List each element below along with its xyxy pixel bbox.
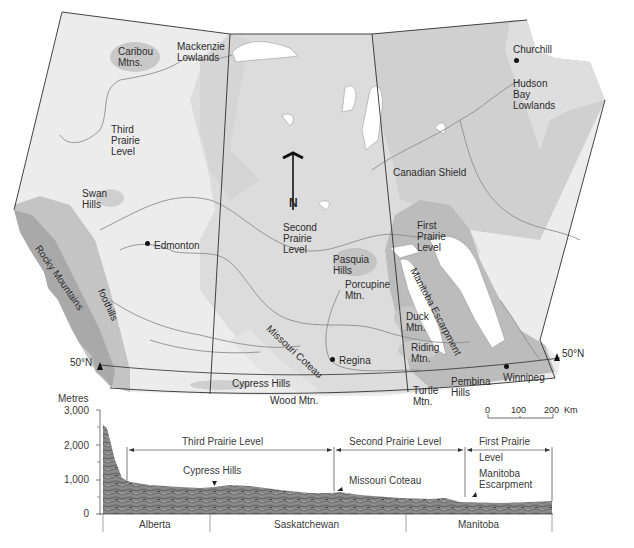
y-tick-2000: 2,000 — [45, 440, 89, 451]
y-tick-1000: 1,000 — [45, 474, 89, 485]
scale-tick-0: 0 — [485, 405, 490, 416]
cypress-marker — [212, 481, 217, 486]
label-caribou-mtns: Caribou Mtns. — [118, 46, 158, 68]
label-first-prairie-level: First Prairie Level — [417, 220, 449, 253]
profile-province-manitoba: Manitoba — [458, 519, 499, 530]
label-riding-mtn: Riding Mtn. — [411, 342, 441, 364]
profile-cypress-hills: Cypress Hills — [183, 465, 241, 476]
city-dot-winnipeg — [504, 364, 509, 369]
city-dot-churchill — [514, 58, 519, 63]
label-churchill: Churchill — [513, 44, 552, 55]
profile-first-prairie-level-2: Level — [479, 452, 503, 463]
profile-manitoba-escarpment-2: Escarpment — [479, 479, 532, 490]
label-edmonton: Edmonton — [154, 240, 200, 251]
profile-second-prairie-level: Second Prairie Level — [349, 436, 441, 447]
scale-unit: Km — [564, 405, 578, 416]
label-duck-mtn: Duck Mtn. — [406, 311, 434, 333]
north-label: N — [289, 198, 298, 209]
city-dot-edmonton — [145, 241, 150, 246]
y-tick-3000: 3,000 — [45, 405, 89, 416]
label-porcupine-mtn: Porcupine Mtn. — [345, 279, 395, 301]
escarpment-marker — [472, 492, 477, 497]
scale-tick-200: 200 — [544, 405, 559, 416]
label-50n-right: 50°N — [562, 348, 584, 359]
label-canadian-shield: Canadian Shield — [393, 167, 466, 178]
profile-province-saskatchewan: Saskatchewan — [274, 519, 339, 530]
label-hudson-bay-lowlands: Hudson Bay Lowlands — [513, 78, 555, 111]
label-pembina-hills: Pembina Hills — [451, 376, 491, 398]
label-mackenzie-lowlands: Mackenzie Lowlands — [177, 41, 227, 63]
label-pasquia-hills: Pasquia Hills — [333, 254, 369, 276]
y-tick-0: 0 — [45, 508, 89, 519]
label-cypress-hills: Cypress Hills — [232, 378, 290, 389]
profile-province-alberta: Alberta — [139, 519, 171, 530]
label-wood-mtn: Wood Mtn. — [270, 395, 318, 406]
label-swan-hills: Swan Hills — [82, 188, 112, 210]
label-winnipeg: Winnipeg — [503, 372, 545, 383]
prairie-provinces-map: Caribou Mtns. Mackenzie Lowlands Third P… — [0, 0, 634, 548]
profile-missouri-coteau: Missouri Coteau — [349, 475, 421, 486]
missouri-marker — [337, 487, 343, 491]
city-dot-regina — [330, 357, 335, 362]
label-50n-left: 50°N — [70, 357, 92, 368]
profile-y-axis-title: Metres — [58, 393, 89, 404]
label-regina: Regina — [339, 355, 371, 366]
label-second-prairie-level: Second Prairie Level — [283, 222, 327, 255]
profile-third-prairie-level: Third Prairie Level — [182, 436, 263, 447]
profile-first-prairie-level-1: First Prairie — [479, 436, 530, 447]
label-turtle-mtn: Turtle Mtn. — [413, 385, 443, 407]
scale-tick-100: 100 — [511, 405, 526, 416]
profile-manitoba-escarpment-1: Manitoba — [479, 468, 520, 479]
label-third-prairie-level: Third Prairie Level — [111, 124, 151, 157]
